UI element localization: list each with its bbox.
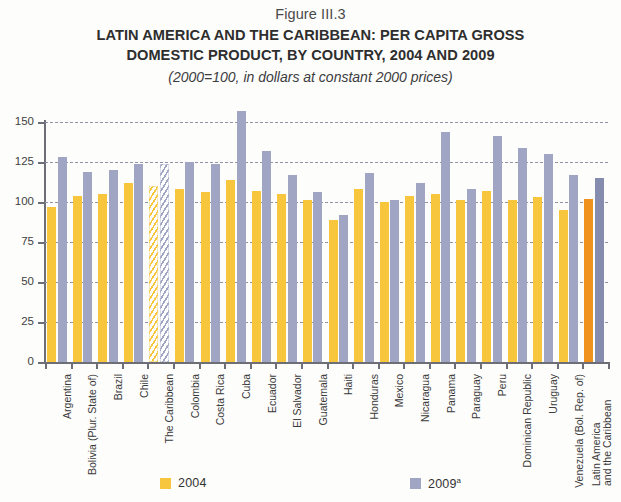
bar-2009: [416, 183, 425, 362]
x-axis-tick-mark: [173, 362, 175, 369]
x-axis-tick-mark: [352, 362, 354, 369]
x-axis-tick-mark: [301, 362, 303, 369]
title-line-2: DOMESTIC PRODUCT, BY COUNTRY, 2004 AND 2…: [0, 45, 621, 65]
x-axis-label: Cuba: [241, 374, 252, 399]
x-axis-label: Uruguay: [548, 374, 559, 414]
bar-group: [531, 122, 557, 362]
bar-2009: [467, 189, 476, 362]
y-axis-tick-label: 0: [0, 355, 34, 367]
bar-group: [480, 122, 506, 362]
y-axis-tick-label: 100: [0, 195, 34, 207]
bar-group: [378, 122, 404, 362]
bar-group: [429, 122, 455, 362]
x-axis-label: Venezuela (Bol. Rep. of): [574, 374, 585, 488]
bar-2004: [201, 192, 210, 362]
bar-group: [506, 122, 532, 362]
x-axis-label: Peru: [497, 374, 508, 396]
y-axis-tick-mark: [38, 122, 45, 124]
x-axis-tick-mark: [45, 362, 47, 369]
bar-2004: [533, 197, 542, 362]
legend-item-2004: 2004: [160, 476, 207, 490]
x-axis-tick-mark: [96, 362, 98, 369]
bar-group: [403, 122, 429, 362]
x-axis-label: Ecuador: [267, 374, 278, 413]
legend-swatch-2004-icon: [160, 478, 171, 489]
y-axis-tick-mark: [38, 202, 45, 204]
figure-subtitle: (2000=100, in dollars at constant 2000 p…: [0, 69, 621, 86]
y-axis-tick-mark: [38, 362, 45, 364]
bar-2004: [47, 207, 56, 362]
figure-container: Figure III.3 LATIN AMERICA AND THE CARIB…: [0, 0, 621, 502]
y-axis-tick-mark: [38, 282, 45, 284]
chart-legend: 2004 2009a: [0, 472, 621, 498]
x-axis-tick-mark: [403, 362, 405, 369]
legend-label-2009-superscript: a: [457, 476, 462, 485]
bar-2004: [405, 196, 414, 362]
bar-2004: [175, 189, 184, 362]
page-title: LATIN AMERICA AND THE CARIBBEAN: PER CAP…: [0, 25, 621, 65]
bar-2009: [83, 172, 92, 362]
bar-2009: [134, 164, 143, 362]
x-axis-label: The Caribbean: [164, 374, 175, 443]
x-axis-tick-mark: [557, 362, 559, 369]
bar-group: [454, 122, 480, 362]
x-axis-tick-mark: [275, 362, 277, 369]
bar-2009: [58, 157, 67, 362]
x-axis-tick-mark: [147, 362, 149, 369]
bar-2004: [303, 200, 312, 362]
bar-2004: [380, 202, 389, 362]
bars-area: [45, 122, 608, 362]
bar-2004: [329, 220, 338, 362]
bar-2009: [109, 170, 118, 362]
bar-group: [122, 122, 148, 362]
x-axis-tick-mark: [71, 362, 73, 369]
y-axis-tick-mark: [38, 162, 45, 164]
bar-group: [45, 122, 71, 362]
bar-2009: [160, 164, 169, 362]
x-axis-label: Brazil: [113, 374, 124, 400]
bar-2004: [584, 199, 593, 362]
x-axis-label: El Salvador: [292, 374, 303, 428]
bar-group: [71, 122, 97, 362]
legend-item-2009: 2009a: [410, 476, 461, 491]
bar-2009: [390, 200, 399, 362]
x-axis-tick-mark: [506, 362, 508, 369]
x-axis-label: Paraguay: [471, 374, 482, 419]
bar-2009: [339, 215, 348, 362]
bar-group: [224, 122, 250, 362]
bar-2004: [456, 200, 465, 362]
x-axis-tick-mark: [250, 362, 252, 369]
x-axis-tick-mark: [608, 362, 610, 369]
bar-2009: [365, 173, 374, 362]
figure-number: Figure III.3: [0, 5, 621, 23]
x-axis-tick-mark: [378, 362, 380, 369]
x-axis-label: Colombia: [190, 374, 201, 418]
bar-2009: [237, 111, 246, 362]
bar-2004: [73, 196, 82, 362]
bar-2009: [262, 151, 271, 362]
x-axis-tick-mark: [199, 362, 201, 369]
x-axis-tick-mark: [582, 362, 584, 369]
bar-group: [275, 122, 301, 362]
x-axis-tick-mark: [122, 362, 124, 369]
bar-2004: [226, 180, 235, 362]
bar-2009: [595, 178, 604, 362]
figure-titles: Figure III.3 LATIN AMERICA AND THE CARIB…: [0, 0, 621, 86]
x-axis-label: Dominican Republic: [522, 374, 533, 467]
y-axis-tick-label: 125: [0, 155, 34, 167]
y-axis-tick-label: 75: [0, 235, 34, 247]
x-axis-tick-mark: [327, 362, 329, 369]
x-axis-label: Bolivia (Plur. State of): [87, 374, 98, 475]
x-axis-label: Panama: [446, 374, 457, 413]
bar-2009: [288, 175, 297, 362]
bar-group: [352, 122, 378, 362]
x-axis-label: Haiti: [343, 374, 354, 395]
legend-label-2009: 2009a: [428, 476, 461, 491]
y-axis-tick-label: 150: [0, 115, 34, 127]
bar-2009: [518, 148, 527, 362]
bar-2004: [149, 186, 158, 362]
bar-2004: [482, 191, 491, 362]
bar-2004: [124, 183, 133, 362]
title-line-1: LATIN AMERICA AND THE CARIBBEAN: PER CAP…: [0, 25, 621, 45]
bar-group: [96, 122, 122, 362]
